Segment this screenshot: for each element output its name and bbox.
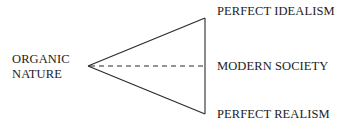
perfect-realism-label: PERFECT REALISM bbox=[217, 107, 330, 122]
lower-edge bbox=[88, 66, 205, 114]
upper-edge bbox=[88, 18, 205, 66]
organic-nature-label: ORGANIC NATURE bbox=[12, 52, 70, 82]
modern-society-label: MODERN SOCIETY bbox=[217, 59, 328, 74]
triangle-diagram: ORGANIC NATURE PERFECT IDEALISM MODERN S… bbox=[0, 0, 356, 128]
organic-nature-line2: NATURE bbox=[12, 67, 70, 82]
perfect-idealism-label: PERFECT IDEALISM bbox=[217, 4, 335, 19]
organic-nature-line1: ORGANIC bbox=[12, 52, 70, 67]
